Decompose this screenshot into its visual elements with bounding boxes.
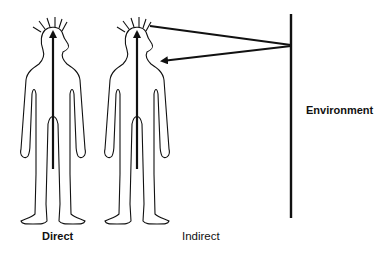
outgoing-line <box>150 26 291 45</box>
diagram-canvas <box>0 0 392 254</box>
label-environment: Environment <box>306 104 373 116</box>
return-arrow <box>162 46 291 61</box>
figure-indirect <box>105 17 170 224</box>
figure-direct <box>21 17 86 224</box>
label-indirect: Indirect <box>182 230 220 242</box>
label-direct: Direct <box>42 230 73 242</box>
